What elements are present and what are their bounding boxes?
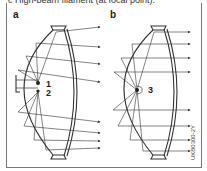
- filament-b: [135, 88, 139, 92]
- callout-3: 3: [148, 85, 153, 95]
- rays-a: [18, 27, 100, 150]
- figure-code: UKB0300-2Y: [190, 125, 196, 160]
- callout-2: 2: [46, 88, 51, 98]
- headlamp-reflector-diagram: [0, 0, 207, 171]
- low-beam-filament-a: [36, 81, 40, 85]
- high-beam-filament-a: [36, 89, 39, 92]
